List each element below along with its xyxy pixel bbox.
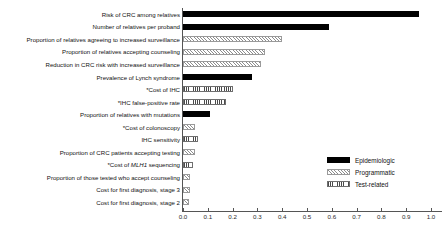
chart-row: Cost for first diagnosis, stage 2 [0,196,447,209]
x-axis-tick-label: 1.0 [421,213,441,220]
bar-epidemiologic [183,74,252,80]
row-label: IHC sensitivity [0,136,183,143]
x-axis-tick-label: 0.9 [396,213,416,220]
chart-row: *Cost of IHC [0,83,447,96]
legend-label: Programmatic [355,169,395,176]
row-label: Number of relatives per proband [0,23,183,30]
bar-track [183,33,447,46]
x-axis-line [182,211,442,212]
legend-label: Epidemiologic [355,157,395,164]
chart-row: Risk of CRC among relatives [0,8,447,21]
x-axis-tick-label: 0.0 [173,213,193,220]
bar-programmatic [183,149,195,155]
bar-programmatic [183,124,195,130]
x-axis-tick-label: 0.4 [272,213,292,220]
bar-track [183,108,447,121]
bar-track [183,58,447,71]
bar-programmatic [183,199,189,205]
bar-track [183,8,447,21]
bar-programmatic [183,49,265,55]
legend-swatch-programmatic [327,169,350,175]
chart-row: Proportion of relatives agreeing to incr… [0,33,447,46]
legend: EpidemiologicProgrammaticTest-related [327,154,447,190]
chart-row: Proportion of relatives with mutations [0,108,447,121]
chart-row: Reduction in CRC risk with increased sur… [0,58,447,71]
x-axis-tick-label: 0.7 [347,213,367,220]
bar-track [183,46,447,59]
row-label: Proportion of relatives accepting counse… [0,48,183,55]
row-label: Risk of CRC among relatives [0,11,183,18]
row-label: Prevalence of Lynch syndrome [0,74,183,81]
legend-item: Test-related [327,178,447,190]
row-label: Proportion of those tested who accept co… [0,174,183,181]
row-label: Proportion of relatives agreeing to incr… [0,36,183,43]
chart-row: Number of relatives per proband [0,21,447,34]
bar-epidemiologic [183,111,210,117]
x-axis-tick-label: 0.1 [198,213,218,220]
bar-programmatic [183,174,190,180]
bar-track [183,83,447,96]
bar-track [183,71,447,84]
legend-swatch-test-related [327,181,350,187]
x-axis-tick-label: 0.5 [297,213,317,220]
chart-row: *Cost of colonoscopy [0,121,447,134]
bar-track [183,21,447,34]
legend-label: Test-related [355,181,388,188]
row-label: Reduction in CRC risk with increased sur… [0,61,183,68]
bar-track [183,121,447,134]
bar-epidemiologic [183,11,419,17]
row-label: *Cost of MLH1 sequencing [0,161,183,168]
chart-row: Prevalence of Lynch syndrome [0,71,447,84]
bar-track [183,133,447,146]
legend-item: Epidemiologic [327,154,447,166]
x-axis-tick-label: 0.8 [371,213,391,220]
row-label: Proportion of CRC patients accepting tes… [0,149,183,156]
row-label: Cost for first diagnosis, stage 3 [0,186,183,193]
row-label: *Cost of colonoscopy [0,124,183,131]
legend-item: Programmatic [327,166,447,178]
chart-row: *IHC false-positive rate [0,96,447,109]
bar-test-related [183,86,233,92]
x-axis-tick-label: 0.2 [223,213,243,220]
bar-programmatic [183,36,282,42]
tornado-chart: Risk of CRC among relativesNumber of rel… [0,0,447,239]
bar-track [183,96,447,109]
chart-row: IHC sensitivity [0,133,447,146]
bar-test-related [183,162,193,168]
bar-track [183,196,447,209]
legend-swatch-epidemiologic [327,157,350,163]
x-axis-tick-label: 0.3 [247,213,267,220]
bar-test-related [183,136,198,142]
bar-programmatic [183,187,190,193]
bar-programmatic [183,61,261,67]
row-label: *IHC false-positive rate [0,99,183,106]
chart-row: Proportion of relatives accepting counse… [0,46,447,59]
bar-test-related [183,99,226,105]
row-label: Proportion of relatives with mutations [0,111,183,118]
row-label: *Cost of IHC [0,86,183,93]
x-axis-tick-label: 0.6 [322,213,342,220]
row-label: Cost for first diagnosis, stage 2 [0,199,183,206]
bar-epidemiologic [183,24,329,30]
